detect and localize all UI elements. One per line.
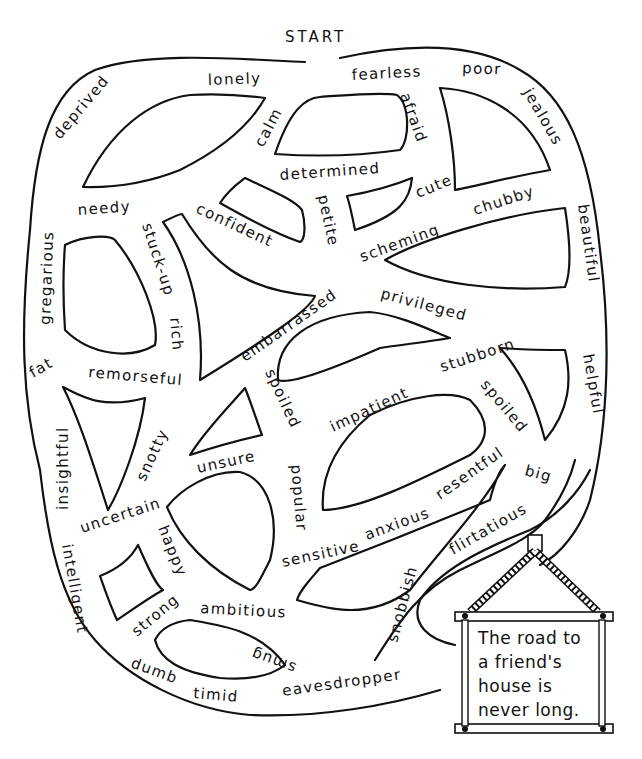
- maze-word-needy: needy: [77, 197, 132, 219]
- sign-text-line: a friend's: [478, 652, 562, 672]
- maze-word-gregarious: gregarious: [36, 230, 57, 325]
- maze-word-eavesdropper: eavesdropper: [281, 665, 402, 700]
- maze-word-uncertain: uncertain: [78, 494, 163, 537]
- maze-island: [275, 94, 407, 156]
- maze-word-impatient: impatient: [327, 383, 411, 435]
- maze-word-afraid: afraid: [396, 90, 431, 145]
- maze-word-embarrassed: embarrassed: [237, 285, 340, 365]
- maze-word-lonely: lonely: [208, 69, 262, 89]
- maze-word-resentful: resentful: [432, 443, 507, 503]
- maze-word-ambitious: ambitious: [200, 599, 287, 622]
- maze-word-stubborn: stubborn: [438, 335, 518, 376]
- maze-word-timid: timid: [193, 684, 240, 706]
- maze-island: [190, 388, 262, 455]
- maze-word-fat: fat: [26, 354, 56, 382]
- sign-hook-icon: [528, 535, 542, 551]
- maze-word-deprived: deprived: [49, 72, 113, 143]
- maze-word-remorseful: remorseful: [88, 363, 184, 389]
- maze-word-big: big: [523, 461, 554, 485]
- sign-text-line: The road to: [477, 628, 581, 648]
- maze-word-insightful: insightful: [54, 426, 72, 510]
- maze-word-happy: happy: [154, 523, 191, 579]
- maze-word-popular: popular: [287, 464, 311, 532]
- start-label: START: [285, 28, 346, 46]
- maze-word-scheming: scheming: [357, 220, 442, 266]
- maze-word-poor: poor: [462, 59, 502, 78]
- maze-word-sensitive: sensitive: [280, 537, 361, 571]
- maze-word-cute: cute: [413, 171, 455, 202]
- maze-word-spoiled: spoiled: [261, 366, 304, 431]
- maze-outer-wall-right: [340, 48, 607, 565]
- maze-island: [64, 237, 156, 354]
- maze-word-intelligent: intelligent: [58, 543, 91, 636]
- maze-word-rich: rich: [166, 317, 187, 352]
- friend-house-sign: The road to a friend's house is never lo…: [455, 535, 613, 733]
- maze-island: [385, 208, 570, 289]
- maze-word-confident: confident: [193, 199, 276, 250]
- maze-word-petite: petite: [314, 193, 342, 248]
- maze-word-fearless: fearless: [351, 62, 422, 84]
- maze-illustration: START The road to a friend's house is ne…: [0, 0, 642, 759]
- maze-word-jealous: jealous: [519, 84, 567, 148]
- maze-island: [347, 178, 412, 230]
- maze-island: [83, 94, 265, 187]
- sign-text-line: house is: [478, 676, 552, 696]
- sign-text-line: never long.: [478, 700, 580, 720]
- maze-island: [63, 387, 145, 510]
- maze-word-dumb: dumb: [129, 654, 181, 688]
- maze-word-privileged: privileged: [379, 284, 469, 324]
- maze-word-strong: strong: [128, 590, 183, 640]
- maze-word-helpful: helpful: [579, 353, 607, 416]
- maze-word-determined: determined: [279, 159, 381, 184]
